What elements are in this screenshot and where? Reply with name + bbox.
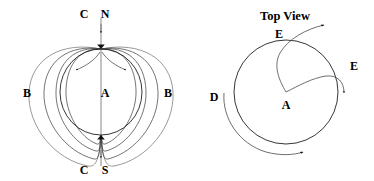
label-field-right: B: [164, 86, 172, 100]
label-spiral-right: E: [350, 59, 358, 73]
south-pole-arrowhead: [97, 135, 105, 139]
label-field-left: B: [23, 86, 31, 100]
field-loop-3-left: [56, 49, 101, 152]
diagram-canvas: C N B A B C S Top View E E D A: [0, 0, 374, 181]
outer-rotation-arc: [224, 93, 303, 155]
label-axis-south: C: [80, 163, 89, 177]
figure-root: C N B A B C S Top View E E D A: [0, 0, 374, 181]
field-loop-outer-left: [29, 47, 101, 166]
label-body-top: A: [282, 98, 291, 112]
right-panel-top-view: Top View E E D A: [210, 9, 358, 155]
label-axis-north: C: [80, 7, 89, 21]
label-outer-arc: D: [210, 90, 219, 104]
spiral-arm-top: [277, 25, 324, 92]
label-spiral-top: E: [275, 27, 283, 41]
top-view-title: Top View: [260, 9, 310, 23]
spiral-arm-right: [286, 76, 344, 93]
field-loop-outer-right: [101, 47, 173, 166]
label-pole-north: N: [101, 7, 110, 21]
field-loop-4-left: [66, 49, 101, 144]
label-pole-south: S: [102, 163, 109, 177]
left-panel-side-view: C N B A B C S: [23, 7, 173, 177]
label-body-side: A: [101, 86, 110, 100]
